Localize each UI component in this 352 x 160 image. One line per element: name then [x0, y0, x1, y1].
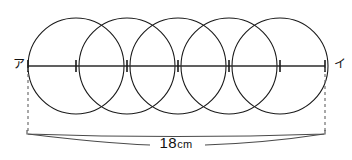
dashed-guides-group — [28, 68, 325, 133]
measurement-value: 18 — [160, 134, 178, 151]
endpoint-label-left: ア — [13, 58, 25, 70]
geometry-figure: ア イ 18cm — [0, 0, 352, 160]
measurement-label: 18cm — [0, 135, 352, 151]
endpoint-label-right: イ — [334, 58, 346, 70]
measurement-unit: cm — [177, 138, 192, 150]
